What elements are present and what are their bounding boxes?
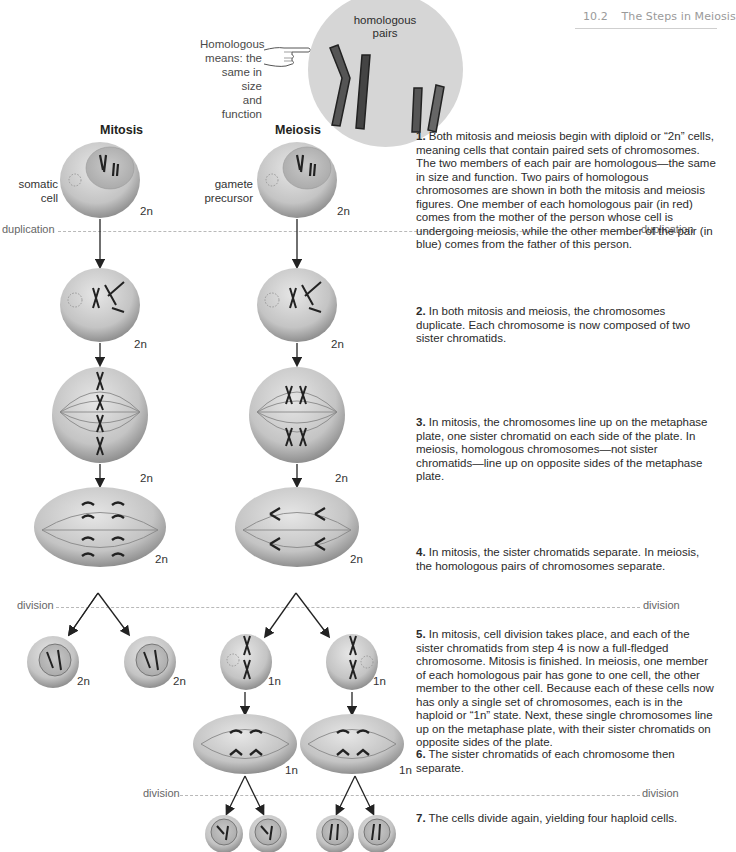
duplicated-cell-mitosis <box>60 268 140 342</box>
step-text: Both mitosis and meiosis begin with dipl… <box>416 130 716 250</box>
ploidy-label: 2n <box>335 472 348 484</box>
ploidy-label: 1n <box>373 675 386 687</box>
somatic-cell <box>60 142 140 218</box>
haploid-cell <box>358 815 396 852</box>
ploidy-label: 2n <box>134 338 147 350</box>
metaphase-cell-mitosis <box>52 367 148 463</box>
haploid-cell <box>205 815 243 852</box>
meiosis2-anaphase-cell <box>300 714 404 774</box>
step-number: 6. <box>416 748 426 760</box>
step-text: In mitosis, the chromosomes line up on t… <box>416 416 708 482</box>
ploidy-label: 1n <box>285 764 298 776</box>
mitosis-meiosis-diagram <box>0 0 480 852</box>
ploidy-label: 1n <box>399 764 412 776</box>
gamete-precursor-cell <box>257 142 337 218</box>
step-text: The cells divide again, yielding four ha… <box>429 812 678 824</box>
step-1: 1. Both mitosis and meiosis begin with d… <box>416 130 716 252</box>
step-4: 4. In mitosis, the sister chromatids sep… <box>416 546 716 573</box>
step-7: 7. The cells divide again, yielding four… <box>416 812 716 826</box>
section-number: 10.2 <box>583 10 608 23</box>
step-text: In mitosis, cell division takes place, a… <box>416 628 714 748</box>
division-label-right-2: division <box>642 787 679 799</box>
step-3: 3. In mitosis, the chromosomes line up o… <box>416 416 716 484</box>
step-2: 2. In both mitosis and meiosis, the chro… <box>416 305 716 346</box>
haploid-cell <box>316 815 354 852</box>
step-text: In both mitosis and meiosis, the chromos… <box>416 305 690 344</box>
step-number: 7. <box>416 812 426 824</box>
step-number: 3. <box>416 416 426 428</box>
mitosis-daughter-cell <box>27 636 79 688</box>
step-number: 2. <box>416 305 426 317</box>
anaphase-cell-meiosis <box>235 487 359 567</box>
duplicated-cell-meiosis <box>257 268 337 342</box>
ploidy-label: 2n <box>155 553 168 565</box>
meiosis-haploid-cell <box>326 634 378 690</box>
division-label-right: division <box>643 599 680 611</box>
step-number: 4. <box>416 546 426 558</box>
ploidy-label: 2n <box>337 205 350 217</box>
ploidy-label: 2n <box>350 553 363 565</box>
meiosis2-anaphase-cell <box>193 714 297 774</box>
step-number: 5. <box>416 628 426 640</box>
ploidy-label: 1n <box>268 675 281 687</box>
ploidy-label: 2n <box>331 338 344 350</box>
ploidy-label: 2n <box>77 675 90 687</box>
section-title: The Steps in Meiosis <box>622 10 736 23</box>
ploidy-label: 2n <box>140 472 153 484</box>
ploidy-label: 2n <box>173 675 186 687</box>
running-header: 10.2 The Steps in Meiosis <box>583 10 717 23</box>
metaphase-cell-meiosis <box>249 367 345 463</box>
meiosis-haploid-cell <box>220 634 272 690</box>
mitosis-daughter-cell <box>124 636 176 688</box>
step-number: 1. <box>416 130 426 142</box>
step-text: In mitosis, the sister chromatids separa… <box>416 546 699 572</box>
step-5: 5. In mitosis, cell division takes place… <box>416 628 716 750</box>
step-6: 6. The sister chromatids of each chromos… <box>416 748 716 775</box>
ploidy-label: 2n <box>140 205 153 217</box>
header-rule <box>575 28 717 29</box>
haploid-cell <box>249 815 287 852</box>
step-text: The sister chromatids of each chromosome… <box>416 748 675 774</box>
anaphase-cell-mitosis <box>34 487 166 567</box>
